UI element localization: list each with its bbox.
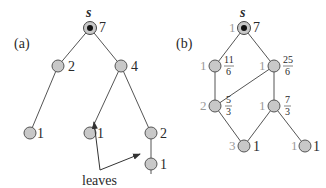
fraction-numerator: 5 [226,94,231,105]
graph-edges [215,28,305,146]
tree-node: 2 [52,59,75,74]
fraction-denominator: 3 [226,106,231,117]
node-count: 3 [229,138,236,153]
tree-node: 2 [145,126,167,141]
node-count: 1 [259,58,266,73]
fraction-numerator: 25 [283,54,293,65]
leaf-node: 1 [24,126,44,141]
leaf-node: 1 [145,157,167,172]
node-count: 2 [200,98,207,113]
panel-a: (a) s 7 2 4 1 1 [14,5,167,188]
node-value: 7 [99,20,106,35]
node-count: 1 [291,138,298,153]
source-node-a: s 7 [84,5,107,35]
tree-edges [30,28,151,174]
panel-a-label: (a) [14,36,30,52]
panel-b: (b) s 1 7 1 11 6 1 25 [176,5,320,154]
fraction-denominator: 3 [285,106,290,117]
graph-node: 3 1 [229,138,260,154]
leaf-node: 1 [84,126,104,141]
graph-node: 1 1 [291,138,320,154]
node-value: 1 [313,139,320,154]
node-value: 1 [160,157,167,172]
graph-node: 1 25 6 [259,54,293,77]
node-value: 2 [160,126,167,141]
node-value: 7 [253,20,260,35]
graph-node: 1 7 3 [259,94,291,117]
node-value: 1 [37,126,44,141]
source-node-b: s 1 7 [229,5,260,35]
fraction-numerator: 11 [224,54,234,65]
node-count: 1 [259,98,266,113]
arrow-icon [100,154,140,170]
panel-b-label: (b) [176,36,193,52]
fraction-numerator: 7 [285,94,290,105]
node-value: 1 [253,139,260,154]
node-value: 4 [131,59,138,74]
node-count: 1 [200,58,207,73]
tree-node: 4 [115,59,138,74]
diagram-canvas: (a) s 7 2 4 1 1 [0,0,326,188]
fraction-denominator: 6 [226,66,231,77]
graph-node: 2 5 3 [200,94,232,117]
graph-node: 1 11 6 [200,54,234,77]
source-label: s [239,5,246,20]
node-value: 2 [68,59,75,74]
source-label: s [85,5,92,20]
node-count: 1 [229,20,236,35]
node-value: 1 [97,126,104,141]
diagram-svg: (a) s 7 2 4 1 1 [0,0,326,188]
leaves-label: leaves [82,173,117,188]
fraction-denominator: 6 [285,66,290,77]
